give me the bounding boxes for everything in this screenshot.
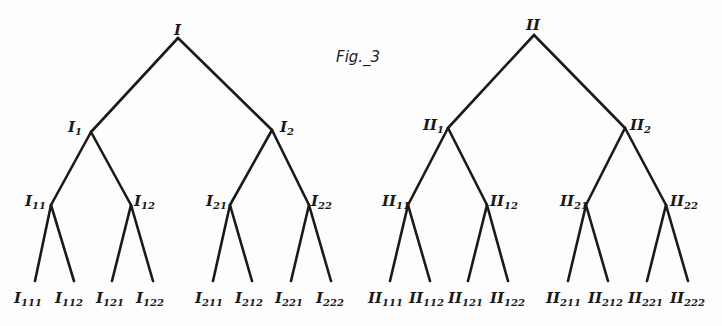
node-label-II22: II22 <box>669 192 698 211</box>
figure-canvas: II1I2I11I12I21I22I111I112I121I122I211I21… <box>0 0 722 326</box>
node-label-II21: II21 <box>559 192 588 211</box>
node-label-I1: I1 <box>67 118 82 137</box>
edge-II2-II22 <box>625 128 666 205</box>
node-label-II112: II112 <box>408 289 444 308</box>
node-subscript: 12 <box>141 200 155 211</box>
node-subscript: 122 <box>143 297 164 308</box>
edge-I1-I11 <box>51 132 91 205</box>
edge-II22-II222 <box>666 205 688 281</box>
edge-I22-I222 <box>309 205 331 281</box>
node-label-I122: I122 <box>135 289 164 308</box>
node-subscript: 222 <box>322 297 344 308</box>
node-subscript: 221 <box>281 297 303 308</box>
edge-II12-II121 <box>468 205 487 281</box>
node-subscript: 2 <box>643 124 651 135</box>
edge-I2-I21 <box>230 130 272 205</box>
node-subscript: 22 <box>317 200 332 211</box>
node-label-I111: I111 <box>13 289 42 308</box>
node-label-II211: II211 <box>545 289 581 308</box>
edge-II12-II122 <box>487 205 508 281</box>
node-label-II: II <box>525 16 541 34</box>
edge-I11-I111 <box>35 205 51 281</box>
node-subscript: 222 <box>683 297 705 308</box>
edge-I-I2 <box>178 38 272 130</box>
node-subscript: 1 <box>75 126 82 137</box>
node-subscript: 11 <box>32 200 46 211</box>
edge-II-II2 <box>534 35 625 128</box>
tree-edges <box>35 35 688 281</box>
node-label-I112: I112 <box>54 289 83 308</box>
node-label-II2: II2 <box>629 116 651 135</box>
node-label-I221: I221 <box>274 289 303 308</box>
edge-I21-I211 <box>213 205 230 281</box>
node-label-II111: II111 <box>367 289 403 308</box>
node-subscript: 121 <box>462 297 483 308</box>
node-subscript: 111 <box>21 297 42 308</box>
edge-II11-II111 <box>390 205 408 281</box>
node-subscript: 211 <box>559 297 581 308</box>
node-label-I222: I222 <box>315 289 344 308</box>
node-subscript: 21 <box>212 200 227 211</box>
node-label-II11: II11 <box>381 192 410 211</box>
node-subscript: 12 <box>504 200 518 211</box>
node-subscript: 11 <box>396 200 410 211</box>
edge-I2-I22 <box>272 130 309 205</box>
binary-tree-diagram: II1I2I11I12I21I22I111I112I121I122I211I21… <box>0 0 722 326</box>
edge-I21-I212 <box>230 205 252 281</box>
edge-II-II1 <box>448 35 534 128</box>
edge-II1-II11 <box>408 128 448 205</box>
node-label-I2: I2 <box>279 118 294 137</box>
edge-I22-I221 <box>291 205 309 281</box>
edge-I11-I112 <box>51 205 74 281</box>
node-label-II1: II1 <box>422 116 444 135</box>
node-subscript: 122 <box>504 297 525 308</box>
node-label-I121: I121 <box>95 289 124 308</box>
node-subscript: 21 <box>573 200 588 211</box>
node-subscript: 211 <box>201 297 223 308</box>
edge-II1-II12 <box>448 128 487 205</box>
node-label-I212: I212 <box>234 289 263 308</box>
node-label-I21: I21 <box>205 192 227 211</box>
node-label-II122: II122 <box>489 289 525 308</box>
edge-I12-I122 <box>131 205 153 281</box>
edge-II21-II212 <box>586 205 608 281</box>
edge-II2-II21 <box>586 128 625 205</box>
node-subscript: 212 <box>241 297 263 308</box>
edge-II22-II221 <box>647 205 666 281</box>
node-label-I22: I22 <box>310 192 332 211</box>
node-subscript: 2 <box>286 126 294 137</box>
node-subscript: 1 <box>437 124 444 135</box>
node-label-I11: I11 <box>24 192 46 211</box>
node-label-I211: I211 <box>194 289 223 308</box>
edge-I-I1 <box>91 38 178 132</box>
edge-I12-I121 <box>112 205 131 281</box>
node-subscript: 112 <box>62 297 83 308</box>
node-label-II212: II212 <box>587 289 623 308</box>
node-label-I12: I12 <box>133 192 155 211</box>
node-label-II121: II121 <box>447 289 483 308</box>
node-subscript: 22 <box>683 200 698 211</box>
node-subscript: 121 <box>103 297 124 308</box>
node-subscript: 112 <box>423 297 444 308</box>
node-subscript: 212 <box>601 297 623 308</box>
node-label-II221: II221 <box>627 289 663 308</box>
node-subscript: 221 <box>641 297 663 308</box>
node-label-I: I <box>173 21 182 39</box>
node-label-II12: II12 <box>489 192 518 211</box>
figure-caption: Fig._3 <box>336 48 380 67</box>
edge-II11-II112 <box>408 205 430 281</box>
node-subscript: 111 <box>382 297 403 308</box>
edge-II21-II211 <box>568 205 586 281</box>
edge-I1-I12 <box>91 132 131 205</box>
node-label-II222: II222 <box>669 289 705 308</box>
